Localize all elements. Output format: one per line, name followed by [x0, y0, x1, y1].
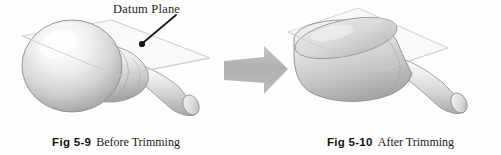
solid-body-after — [291, 10, 470, 116]
figure-page: Fig 5-9Before Trimming Datum Plane — [0, 0, 501, 155]
figure-number-after: Fig 5-10 — [327, 136, 373, 148]
figure-title-after: After Trimming — [378, 135, 454, 149]
illustration-after-trimming — [280, 0, 501, 122]
illustration-before-trimming — [0, 0, 232, 122]
figure-title-before: Before Trimming — [96, 135, 180, 149]
caption-after: Fig 5-10After Trimming — [280, 133, 501, 149]
figure-panel-before: Fig 5-9Before Trimming — [0, 0, 232, 155]
caption-before: Fig 5-9Before Trimming — [0, 133, 232, 149]
datum-plane-label: Datum Plane — [113, 2, 180, 17]
figure-number-before: Fig 5-9 — [52, 136, 91, 148]
figure-panel-after: Fig 5-10After Trimming — [280, 0, 501, 155]
